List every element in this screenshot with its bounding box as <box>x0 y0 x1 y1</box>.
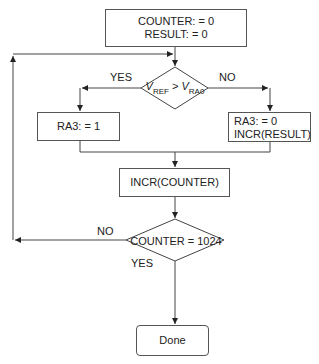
incr-counter-box: INCR(COUNTER) <box>119 168 230 197</box>
decision2-no-label: NO <box>97 225 114 237</box>
incr-counter-text: INCR(COUNTER) <box>130 176 219 189</box>
decision2-text: COUNTER = 1024 <box>130 235 221 247</box>
done-terminal: Done <box>136 325 209 356</box>
incr-result-text: INCR(RESULT) <box>234 128 310 141</box>
yes-action-box: RA3: = 1 <box>37 112 120 141</box>
ra3-clear-text: RA3: = 0 <box>234 115 310 128</box>
init-box: COUNTER: = 0 RESULT: = 0 <box>105 9 247 47</box>
done-text: Done <box>159 334 185 347</box>
ra3-set-text: RA3: = 1 <box>57 120 100 133</box>
decision1-yes-label: YES <box>110 71 132 83</box>
decision1-no-label: NO <box>219 71 236 83</box>
decision2-yes-label: YES <box>131 257 153 269</box>
decision1-text: VREF > VRA0 <box>146 80 205 95</box>
no-action-box: RA3: = 0 INCR(RESULT) <box>228 112 311 142</box>
init-counter-text: COUNTER: = 0 <box>138 15 214 28</box>
init-result-text: RESULT: = 0 <box>144 28 207 41</box>
